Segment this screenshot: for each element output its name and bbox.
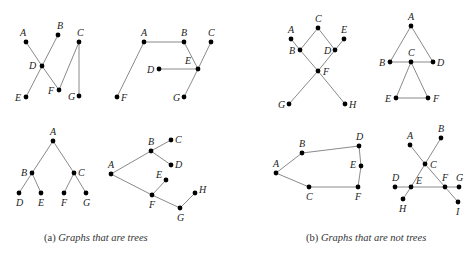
edge-E-C <box>198 42 211 69</box>
node-label-D: D <box>28 60 37 71</box>
node-label-D: D <box>355 131 364 142</box>
node-F <box>115 95 120 100</box>
node-B <box>56 33 61 38</box>
node-D <box>393 185 398 190</box>
node-label-B: B <box>21 167 27 178</box>
node-A <box>24 40 29 45</box>
node-A <box>51 139 56 144</box>
graph-tree-3: ABCDEFG <box>15 126 90 208</box>
node-label-E: E <box>384 93 391 104</box>
node-E <box>39 191 44 196</box>
node-H <box>401 197 406 202</box>
node-label-B: B <box>181 27 187 38</box>
node-label-C: C <box>430 159 437 170</box>
node-E <box>359 164 364 169</box>
node-label-E: E <box>155 169 162 180</box>
node-label-C: C <box>77 27 84 38</box>
edge-A-B <box>32 141 53 173</box>
graphs-figure: ABCDEFGABCDEFGABCDEFGABCDEFGHABCDEFGHABC… <box>0 0 466 256</box>
node-label-E: E <box>349 159 356 170</box>
graph-tree-2: ABCDEFG <box>115 27 215 103</box>
node-E <box>24 95 29 100</box>
graph-layer: ABCDEFGABCDEFGABCDEFGABCDEFGHABCDEFGHABC… <box>14 11 463 223</box>
node-label-A: A <box>272 158 280 169</box>
node-D <box>40 64 45 69</box>
node-E <box>409 185 414 190</box>
node-C <box>423 162 428 167</box>
node-label-A: A <box>19 27 27 38</box>
node-label-D: D <box>391 172 400 183</box>
node-B <box>30 171 35 176</box>
edge-G-H <box>180 193 195 208</box>
node-C <box>77 40 82 45</box>
edge-F-E <box>152 180 166 195</box>
node-C <box>316 26 321 31</box>
caption-b-text: Graphs that are not trees <box>321 232 426 243</box>
node-label-F: F <box>432 93 440 104</box>
node-C <box>72 171 77 176</box>
node-label-E: E <box>415 175 422 186</box>
node-label-A: A <box>407 11 415 22</box>
node-H <box>193 191 198 196</box>
node-F <box>150 193 155 198</box>
node-H <box>343 102 348 107</box>
node-G <box>77 94 82 99</box>
caption-a-prefix: (a) <box>44 232 58 243</box>
node-G <box>457 185 462 190</box>
node-E <box>394 96 399 101</box>
node-label-H: H <box>198 184 207 195</box>
node-B <box>439 136 444 141</box>
node-G <box>287 102 292 107</box>
edge-D-E <box>359 146 361 166</box>
edge-F-C <box>59 42 79 90</box>
node-C <box>409 60 414 65</box>
node-label-C: C <box>78 167 85 178</box>
edge-A-C <box>410 145 425 164</box>
caption-a: (a) Graphs that are trees <box>44 232 148 243</box>
edge-F-I <box>445 187 458 202</box>
node-label-A: A <box>49 126 57 137</box>
edge-C-E <box>396 62 411 98</box>
node-label-G: G <box>173 92 180 103</box>
node-label-D: D <box>146 64 155 75</box>
node-G <box>84 191 89 196</box>
node-label-H: H <box>398 203 407 214</box>
edge-E-G <box>184 69 198 97</box>
edge-A-F <box>117 42 144 97</box>
node-label-E: E <box>340 24 347 35</box>
graph-tree-1: ABCDEFG <box>14 20 84 103</box>
edge-E-F <box>358 166 361 187</box>
node-D <box>157 67 162 72</box>
edge-A-C <box>53 141 74 173</box>
edge-C-F <box>64 173 74 193</box>
node-label-E: E <box>37 197 44 208</box>
graph-nontree-3: ABCDEF <box>272 131 364 202</box>
node-A <box>289 37 294 42</box>
node-label-A: A <box>406 130 414 141</box>
node-G <box>178 206 183 211</box>
node-D <box>431 60 436 65</box>
node-C <box>169 138 174 143</box>
node-label-B: B <box>299 138 305 149</box>
node-label-C: C <box>175 134 182 145</box>
edge-A-B <box>276 153 302 173</box>
node-label-G: G <box>456 172 463 183</box>
node-label-A: A <box>287 24 295 35</box>
node-label-G: G <box>177 212 184 223</box>
node-F <box>57 88 62 93</box>
node-label-F: F <box>148 199 156 210</box>
node-label-A: A <box>107 159 115 170</box>
node-A <box>109 172 114 177</box>
node-D <box>333 48 338 53</box>
edge-B-D <box>151 151 171 165</box>
node-E <box>342 37 347 42</box>
node-label-F: F <box>60 197 68 208</box>
node-label-D: D <box>323 45 332 56</box>
node-A <box>142 40 147 45</box>
node-I <box>456 200 461 205</box>
caption-b-prefix: (b) <box>306 232 321 243</box>
node-B <box>298 48 303 53</box>
node-label-C: C <box>315 13 322 24</box>
node-A <box>409 24 414 29</box>
node-G <box>182 95 187 100</box>
